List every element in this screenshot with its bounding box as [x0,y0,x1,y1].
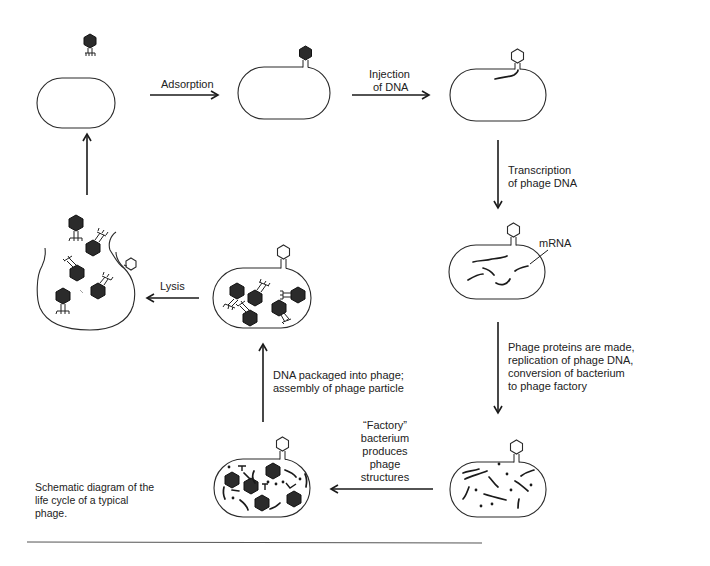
label-line: assembly of phage particle [273,382,404,395]
stage-assembled-phages [213,245,311,328]
figure-caption: Schematic diagram of the life cycle of a… [35,481,154,520]
burst-cell-membrane [37,248,135,330]
label-line: Phage proteins are made, [508,341,635,354]
caption-line: life cycle of a typical [35,494,154,507]
stage-free-phage-and-bacterium [37,34,115,128]
label-factory: “Factory” bacterium produces phage struc… [350,419,420,484]
label-protein-synthesis: Phage proteins are made, replication of … [508,341,635,393]
empty-phage-coat-icon [278,245,290,259]
arrow-transcription [494,140,502,208]
stage-phage-structures [214,437,310,517]
label-line: of DNA [369,81,410,94]
dna-fragments [463,463,534,508]
arrow-lysis [147,294,199,302]
label-line: produces [350,445,420,458]
label-adsorption: Adsorption [161,78,214,91]
label-injection: Injection of DNA [369,68,410,94]
label-line: structures [350,471,420,484]
label-line: to phage factory [508,380,635,393]
mature-phages [223,279,305,326]
stage-phage-factory [450,440,546,517]
stage-dna-injected [450,49,546,121]
mrna-strands [468,250,548,285]
arrow-protein-synthesis [494,322,502,413]
phage-head-icon [300,46,312,60]
arrow-adsorption [150,91,218,99]
arrow-reinfection [83,134,91,195]
label-line: DNA packaged into phage; [273,369,404,382]
empty-phage-coat-icon [512,49,524,63]
bacterium-cell [238,67,330,119]
caption-line: Schematic diagram of the [35,481,154,494]
label-line: conversion of bacterium [508,367,635,380]
stage-mrna-transcribed [449,223,548,299]
label-line: “Factory” [350,419,420,432]
empty-phage-coat-icon [508,223,520,237]
label-mrna: mRNA [539,237,571,250]
label-line: Transcription [508,164,577,177]
label-line: Injection [369,68,410,81]
label-line: bacterium [350,432,420,445]
label-line: phage [350,458,420,471]
arrow-factory [331,485,433,493]
stage-lysed-cell [37,215,136,330]
injected-dna [495,70,518,79]
label-line: of phage DNA [508,177,577,190]
arrow-packaging [259,344,267,422]
stage-phage-adsorbed [238,46,330,119]
empty-phage-coat-icon [277,437,289,451]
bacterium-cell [449,245,545,299]
label-line: replication of phage DNA, [508,354,635,367]
label-lysis: Lysis [160,280,185,293]
label-transcription: Transcription of phage DNA [508,164,577,190]
caption-line: phage. [35,507,154,520]
bacterium-cell [450,69,546,121]
label-packaging: DNA packaged into phage; assembly of pha… [273,369,404,395]
released-phages [56,215,113,314]
empty-phage-coat-icon [126,258,136,270]
bottom-rule [27,542,482,543]
bacterium-cell [37,78,115,128]
phage-icon [84,34,96,56]
empty-phage-coat-icon [511,440,523,454]
